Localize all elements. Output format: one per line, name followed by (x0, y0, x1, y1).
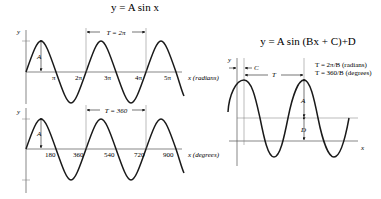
sine-diagram: y = A sin x y = A sin (Bx + C)+D y A T =… (0, 0, 381, 199)
tick-label: 720 (134, 151, 145, 159)
tick-label: 2π (75, 74, 83, 82)
x-axis-label: x (radians) (187, 74, 220, 82)
tick-label: 360 (73, 151, 84, 159)
period-label: T = 360 (105, 107, 128, 115)
amplitude-label: A (300, 97, 306, 105)
top-graph: y A T = 2π π 2π 3π 4π 5π x (radians) (16, 28, 220, 104)
x-axis-label: x (360, 144, 365, 152)
tick-label: 3π (104, 74, 112, 82)
left-title: y = A sin x (111, 1, 159, 13)
tick-label: 900 (163, 151, 174, 159)
right-title: y = A sin (Bx + C)+D (260, 35, 356, 48)
amplitude-label: A (36, 130, 42, 138)
period-formula-radians: T = 2π/B (radians) (315, 61, 368, 69)
tick-label: 5π (164, 74, 172, 82)
x-axis-label: x (degrees) (187, 151, 220, 159)
period-formula-degrees: T = 360/B (degrees) (315, 69, 372, 77)
right-graph: y x C T A D T = 2π/B (radians) T = 360/B… (227, 56, 372, 166)
amplitude-label: A (36, 53, 42, 61)
period-label: T (272, 71, 277, 79)
bottom-graph: y A T = 360 180 360 540 720 900 x (degre… (16, 105, 220, 193)
y-axis-label: y (16, 28, 21, 36)
y-axis-label: y (16, 108, 21, 116)
y-axis-label: y (227, 56, 232, 64)
offset-label: D (300, 126, 306, 134)
tick-label: 4π (135, 74, 143, 82)
tick-label: 540 (104, 151, 115, 159)
tick-label: π (52, 74, 56, 82)
period-label: T = 2π (107, 29, 126, 37)
phase-label: C (254, 64, 259, 72)
tick-label: 180 (45, 151, 56, 159)
sine-curve (26, 119, 184, 180)
sine-curve (228, 80, 349, 157)
